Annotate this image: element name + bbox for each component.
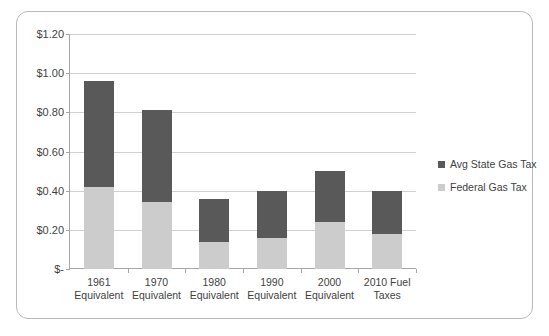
y-axis-tick (66, 112, 70, 113)
legend-swatch-icon (438, 184, 445, 191)
x-axis-tick (416, 269, 417, 273)
x-axis-tick (185, 269, 186, 273)
bar-segment-avg-state-gas-tax[interactable] (84, 81, 114, 187)
x-axis-tick-label-line: Equivalent (67, 289, 131, 302)
chart-frame: $1.20$1.00$0.80$0.60$0.40$0.20$- 1961Equ… (16, 11, 533, 319)
chart-legend: Avg State Gas TaxFederal Gas Tax (438, 158, 538, 204)
x-axis-tick (301, 269, 302, 273)
x-axis-tick-label-line: 2000 (298, 276, 362, 289)
bar-segment-federal-gas-tax[interactable] (199, 242, 229, 269)
y-axis-tick (66, 34, 70, 35)
x-axis-tick-label: 2000Equivalent (298, 276, 362, 302)
x-axis-tick-label-line: 1990 (240, 276, 304, 289)
bar-segment-federal-gas-tax[interactable] (315, 222, 345, 269)
x-axis-tick-label-line: Equivalent (298, 289, 362, 302)
y-axis-tick (66, 152, 70, 153)
legend-label: Avg State Gas Tax (450, 158, 537, 170)
y-axis-tick-label: $0.60 (36, 146, 64, 158)
bar-segment-avg-state-gas-tax[interactable] (257, 191, 287, 238)
gridline (70, 191, 416, 192)
bar-segment-federal-gas-tax[interactable] (142, 202, 172, 269)
x-axis-tick-label: 1990Equivalent (240, 276, 304, 302)
x-axis-tick-label-line: Equivalent (240, 289, 304, 302)
x-axis-tick-label: 1970Equivalent (125, 276, 189, 302)
plot-area: $1.20$1.00$0.80$0.60$0.40$0.20$- 1961Equ… (70, 34, 416, 269)
x-axis-tick-label: 1980Equivalent (182, 276, 246, 302)
gridline (70, 34, 416, 35)
bar-segment-federal-gas-tax[interactable] (257, 238, 287, 269)
y-axis-tick-label: $1.00 (36, 67, 64, 79)
x-axis-tick-label: 2010 FuelTaxes (355, 276, 419, 302)
bar-segment-avg-state-gas-tax[interactable] (372, 191, 402, 234)
y-axis-tick-label: $- (54, 263, 64, 275)
x-axis-tick-label-line: 1970 (125, 276, 189, 289)
gridline (70, 112, 416, 113)
x-axis-tick-label-line: Equivalent (182, 289, 246, 302)
y-axis-tick-label: $0.40 (36, 185, 64, 197)
y-axis-tick (66, 230, 70, 231)
x-axis-tick (243, 269, 244, 273)
y-axis-tick (66, 73, 70, 74)
legend-swatch-icon (438, 161, 445, 168)
gridline (70, 73, 416, 74)
gridline (70, 230, 416, 231)
x-axis-tick-label-line: 2010 Fuel (355, 276, 419, 289)
x-axis-tick-label: 1961Equivalent (67, 276, 131, 302)
x-axis-tick (128, 269, 129, 273)
bar-segment-avg-state-gas-tax[interactable] (199, 199, 229, 242)
y-axis-tick (66, 269, 70, 270)
legend-item[interactable]: Federal Gas Tax (438, 181, 538, 193)
x-axis-tick-label-line: Taxes (355, 289, 419, 302)
bar-segment-federal-gas-tax[interactable] (372, 234, 402, 269)
bar-segment-avg-state-gas-tax[interactable] (142, 110, 172, 202)
gridline (70, 152, 416, 153)
y-axis-tick (66, 191, 70, 192)
y-axis-tick-label: $0.20 (36, 224, 64, 236)
legend-label: Federal Gas Tax (450, 181, 527, 193)
legend-item[interactable]: Avg State Gas Tax (438, 158, 538, 170)
x-axis-tick-label-line: Equivalent (125, 289, 189, 302)
y-axis-tick-label: $0.80 (36, 106, 64, 118)
chart-screenshot: $1.20$1.00$0.80$0.60$0.40$0.20$- 1961Equ… (0, 0, 549, 336)
bar-segment-avg-state-gas-tax[interactable] (315, 171, 345, 222)
x-axis-tick (358, 269, 359, 273)
y-axis-tick-label: $1.20 (36, 28, 64, 40)
bar-segment-federal-gas-tax[interactable] (84, 187, 114, 269)
x-axis-tick-label-line: 1980 (182, 276, 246, 289)
x-axis-tick-label-line: 1961 (67, 276, 131, 289)
